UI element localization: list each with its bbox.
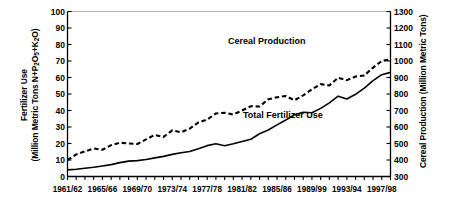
chart-container: Fertilizer Use (Million Metric Tons N+P2… [0, 0, 450, 214]
series-line-total-fertilizer-use [68, 72, 391, 170]
plot-area [0, 0, 450, 214]
